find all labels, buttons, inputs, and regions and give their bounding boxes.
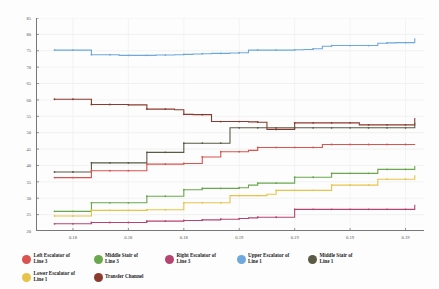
legend-item[interactable]: Upper Escalator of Line 1 bbox=[237, 250, 305, 268]
legend-item-label: Middle Stair of Line 3 bbox=[105, 253, 161, 264]
svg-text:70: 70 bbox=[26, 65, 31, 70]
svg-text:20: 20 bbox=[26, 229, 31, 234]
plot-area bbox=[36, 18, 424, 231]
svg-text:25: 25 bbox=[26, 212, 31, 217]
line-chart-svg bbox=[36, 18, 424, 231]
legend-color-swatch-icon bbox=[22, 255, 31, 264]
chart-screenshot: 8580757065605550454035302520 0.180.180.1… bbox=[0, 0, 439, 289]
legend-color-swatch-icon bbox=[237, 255, 246, 264]
legend-item[interactable]: Transfer Channel bbox=[94, 268, 162, 286]
svg-text:0.19: 0.19 bbox=[346, 235, 355, 240]
svg-text:35: 35 bbox=[26, 180, 31, 185]
legend-item[interactable]: Middle Stair of Line 3 bbox=[94, 250, 162, 268]
svg-text:50: 50 bbox=[26, 130, 31, 135]
legend-color-swatch-icon bbox=[308, 255, 317, 264]
svg-text:85: 85 bbox=[26, 16, 31, 21]
legend-color-swatch-icon bbox=[94, 273, 103, 282]
svg-text:30: 30 bbox=[26, 196, 31, 201]
legend-item-label: Middle Stair of Line 1 bbox=[320, 253, 376, 264]
legend-color-swatch-icon bbox=[94, 255, 103, 264]
data-series-group bbox=[54, 38, 415, 224]
legend-item-label: Upper Escalator of Line 1 bbox=[248, 253, 304, 264]
svg-text:0.19: 0.19 bbox=[402, 235, 411, 240]
legend-color-swatch-icon bbox=[22, 273, 31, 282]
chart-legend: Left Escalator of Line 3Middle Stair of … bbox=[22, 250, 437, 286]
svg-text:55: 55 bbox=[26, 114, 31, 119]
svg-text:0.18: 0.18 bbox=[124, 235, 133, 240]
legend-item[interactable]: Right Escalator of Line 3 bbox=[165, 250, 233, 268]
svg-text:0.19: 0.19 bbox=[291, 235, 300, 240]
svg-text:75: 75 bbox=[26, 48, 31, 53]
legend-color-swatch-icon bbox=[165, 255, 174, 264]
legend-item[interactable]: Left Escalator of Line 3 bbox=[22, 250, 90, 268]
y-tick-labels: 8580757065605550454035302520 bbox=[26, 16, 31, 234]
svg-text:0.19: 0.19 bbox=[235, 235, 244, 240]
svg-text:45: 45 bbox=[26, 147, 31, 152]
svg-text:40: 40 bbox=[26, 163, 31, 168]
legend-item-label: Right Escalator of Line 3 bbox=[177, 253, 233, 264]
legend-item[interactable]: Lower Escalator of Line 1 bbox=[22, 268, 90, 286]
legend-item-label: Lower Escalator of Line 1 bbox=[34, 271, 90, 282]
svg-text:60: 60 bbox=[26, 98, 31, 103]
svg-text:0.18: 0.18 bbox=[180, 235, 189, 240]
svg-text:0.18: 0.18 bbox=[69, 235, 78, 240]
svg-text:65: 65 bbox=[26, 81, 31, 86]
legend-item[interactable]: Middle Stair of Line 1 bbox=[308, 250, 376, 268]
svg-text:80: 80 bbox=[26, 32, 31, 37]
x-tick-labels: 0.180.180.180.190.190.190.19 bbox=[69, 235, 410, 240]
legend-item-label: Transfer Channel bbox=[105, 274, 161, 280]
legend-item-label: Left Escalator of Line 3 bbox=[34, 253, 90, 264]
